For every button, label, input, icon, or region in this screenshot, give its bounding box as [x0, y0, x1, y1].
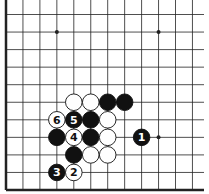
- stone-circle: [49, 129, 66, 146]
- white-stone: [99, 112, 116, 129]
- black-stone: [66, 147, 83, 164]
- stones: 654132: [49, 94, 150, 181]
- black-stone: [82, 129, 99, 146]
- move-number: 4: [70, 131, 78, 144]
- white-stone: [82, 147, 99, 164]
- white-stone: [99, 129, 116, 146]
- stone-circle: [82, 147, 99, 164]
- go-board-diagram: 654132: [0, 0, 209, 194]
- black-stone-move-5: 5: [66, 112, 83, 129]
- move-number: 5: [70, 114, 78, 127]
- white-stone: [99, 147, 116, 164]
- black-stone: [99, 94, 116, 111]
- stone-circle: [99, 112, 116, 129]
- black-stone-move-3: 3: [49, 164, 66, 181]
- stone-circle: [99, 129, 116, 146]
- white-stone-move-2: 2: [66, 164, 83, 181]
- stone-circle: [82, 129, 99, 146]
- black-stone: [49, 129, 66, 146]
- stone-circle: [82, 112, 99, 129]
- move-number: 2: [70, 166, 78, 179]
- move-number: 1: [138, 131, 146, 144]
- white-stone-move-6: 6: [49, 112, 66, 129]
- stone-circle: [99, 94, 116, 111]
- white-stone-move-4: 4: [66, 129, 83, 146]
- stone-circle: [66, 94, 83, 111]
- stone-circle: [82, 94, 99, 111]
- black-stone: [116, 94, 133, 111]
- move-number: 6: [53, 114, 61, 127]
- black-stone-move-1: 1: [133, 129, 150, 146]
- stone-circle: [66, 147, 83, 164]
- star-point: [157, 30, 161, 34]
- white-stone: [66, 94, 83, 111]
- stone-circle: [99, 147, 116, 164]
- star-point: [157, 135, 161, 139]
- white-stone: [82, 94, 99, 111]
- black-stone: [82, 112, 99, 129]
- star-point: [55, 30, 59, 34]
- move-number: 3: [53, 166, 61, 179]
- stone-circle: [116, 94, 133, 111]
